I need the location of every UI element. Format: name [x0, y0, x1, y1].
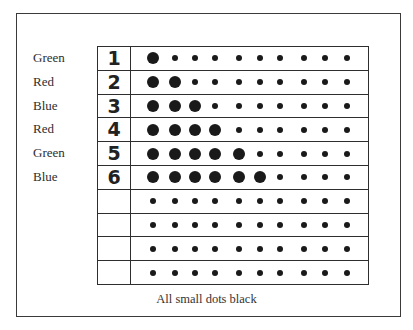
- large-dot-icon: [233, 148, 245, 160]
- small-dot-icon: [277, 103, 283, 109]
- small-dot-icon: [322, 198, 328, 204]
- row-number: 6: [98, 166, 131, 189]
- small-dot-icon: [277, 198, 283, 204]
- small-dot-icon: [301, 222, 307, 228]
- small-dot-icon: [277, 79, 283, 85]
- small-dot-icon: [150, 246, 156, 252]
- row-number: 5: [98, 142, 131, 165]
- small-dot-icon: [322, 127, 328, 133]
- row-label: Red: [33, 117, 54, 141]
- small-dot-icon: [322, 79, 328, 85]
- dot-row: [131, 166, 368, 189]
- large-dot-icon: [169, 76, 181, 88]
- small-dot-icon: [301, 198, 307, 204]
- small-dot-icon: [150, 270, 156, 276]
- large-dot-icon: [189, 171, 201, 183]
- small-dot-icon: [301, 270, 307, 276]
- table-row: [98, 190, 368, 214]
- small-dot-icon: [322, 174, 328, 180]
- small-dot-icon: [301, 55, 307, 61]
- small-dot-icon: [277, 246, 283, 252]
- table-row: 1: [98, 47, 368, 71]
- small-dot-icon: [192, 246, 198, 252]
- large-dot-icon: [147, 124, 159, 136]
- row-number: 4: [98, 118, 131, 141]
- small-dot-icon: [322, 103, 328, 109]
- small-dot-icon: [150, 222, 156, 228]
- small-dot-icon: [344, 103, 350, 109]
- table-row: [98, 261, 368, 285]
- table-row: 3: [98, 95, 368, 119]
- dot-row: [131, 214, 368, 237]
- small-dot-icon: [344, 174, 350, 180]
- small-dot-icon: [301, 79, 307, 85]
- small-dot-icon: [344, 151, 350, 157]
- large-dot-icon: [147, 52, 159, 64]
- small-dot-icon: [236, 127, 242, 133]
- small-dot-icon: [257, 246, 263, 252]
- small-dot-icon: [257, 151, 263, 157]
- large-dot-icon: [189, 100, 201, 112]
- small-dot-icon: [322, 246, 328, 252]
- small-dot-icon: [344, 79, 350, 85]
- row-label: Blue: [33, 165, 58, 189]
- small-dot-icon: [212, 103, 218, 109]
- small-dot-icon: [212, 198, 218, 204]
- small-dot-icon: [192, 198, 198, 204]
- large-dot-icon: [169, 124, 181, 136]
- large-dot-icon: [209, 124, 221, 136]
- small-dot-icon: [172, 246, 178, 252]
- small-dot-icon: [344, 270, 350, 276]
- small-dot-icon: [236, 222, 242, 228]
- row-number: [98, 237, 131, 260]
- row-label: Green: [33, 141, 65, 165]
- small-dot-icon: [277, 270, 283, 276]
- table-row: [98, 237, 368, 261]
- row-number: 2: [98, 71, 131, 94]
- large-dot-icon: [169, 171, 181, 183]
- small-dot-icon: [172, 55, 178, 61]
- small-dot-icon: [257, 103, 263, 109]
- row-number: [98, 214, 131, 237]
- small-dot-icon: [257, 127, 263, 133]
- row-label: Green: [33, 46, 65, 70]
- small-dot-icon: [257, 55, 263, 61]
- row-label: Blue: [33, 94, 58, 118]
- small-dot-icon: [236, 246, 242, 252]
- small-dot-icon: [172, 222, 178, 228]
- row-number: [98, 190, 131, 213]
- large-dot-icon: [147, 76, 159, 88]
- small-dot-icon: [257, 270, 263, 276]
- dot-row: [131, 237, 368, 260]
- small-dot-icon: [172, 270, 178, 276]
- dot-row: [131, 71, 368, 94]
- small-dot-icon: [344, 127, 350, 133]
- small-dot-icon: [212, 79, 218, 85]
- table-row: [98, 214, 368, 238]
- large-dot-icon: [233, 171, 245, 183]
- small-dot-icon: [301, 151, 307, 157]
- figure-caption: All small dots black: [0, 292, 413, 307]
- large-dot-icon: [147, 171, 159, 183]
- small-dot-icon: [236, 79, 242, 85]
- small-dot-icon: [212, 55, 218, 61]
- row-number: 3: [98, 95, 131, 118]
- small-dot-icon: [236, 270, 242, 276]
- small-dot-icon: [322, 55, 328, 61]
- small-dot-icon: [277, 151, 283, 157]
- small-dot-icon: [277, 55, 283, 61]
- table-row: 5: [98, 142, 368, 166]
- small-dot-icon: [212, 222, 218, 228]
- small-dot-icon: [322, 270, 328, 276]
- large-dot-icon: [189, 148, 201, 160]
- small-dot-icon: [212, 246, 218, 252]
- small-dot-icon: [172, 198, 178, 204]
- large-dot-icon: [147, 100, 159, 112]
- small-dot-icon: [192, 79, 198, 85]
- small-dot-icon: [257, 222, 263, 228]
- table-row: 4: [98, 118, 368, 142]
- small-dot-icon: [277, 127, 283, 133]
- small-dot-icon: [344, 246, 350, 252]
- small-dot-icon: [192, 270, 198, 276]
- small-dot-icon: [277, 174, 283, 180]
